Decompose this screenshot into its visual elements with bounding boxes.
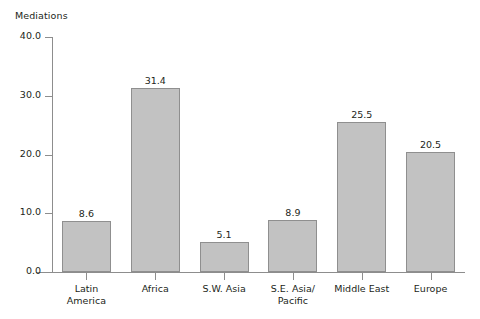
y-tick: 40.0: [45, 37, 53, 38]
x-axis-category-label: Europe: [396, 283, 465, 295]
x-axis-category-label: Latin America: [52, 283, 121, 306]
bar-value-label: 8.9: [285, 207, 300, 218]
y-tick-label: 20.0: [20, 148, 41, 159]
x-tick: [155, 273, 156, 280]
bar: 8.6: [62, 221, 111, 272]
bar-value-label: 31.4: [145, 75, 166, 86]
bar-chart: Mediations 0.010.020.030.040.0 8.631.45.…: [0, 0, 480, 319]
bar-value-label: 8.6: [79, 208, 94, 219]
y-tick: 20.0: [45, 155, 53, 156]
bar: 25.5: [337, 122, 386, 272]
x-axis-category-label: Africa: [121, 283, 190, 295]
y-tick-label: 0.0: [26, 265, 41, 276]
x-axis-line: [36, 272, 465, 273]
bar: 8.9: [268, 220, 317, 272]
bar-value-label: 20.5: [420, 139, 441, 150]
x-tick: [224, 273, 225, 280]
bar: 20.5: [406, 152, 455, 272]
y-tick: 0.0: [45, 272, 53, 273]
bar-value-label: 25.5: [351, 109, 372, 120]
x-tick: [293, 273, 294, 280]
x-axis-category-label: S.W. Asia: [190, 283, 259, 295]
x-tick: [362, 273, 363, 280]
y-tick-label: 40.0: [20, 30, 41, 41]
bar: 5.1: [200, 242, 249, 272]
y-tick-label: 10.0: [20, 206, 41, 217]
bar: 31.4: [131, 88, 180, 272]
y-tick: 30.0: [45, 96, 53, 97]
x-axis-category-label: Middle East: [327, 283, 396, 295]
x-tick: [86, 273, 87, 280]
y-axis-title: Mediations: [15, 10, 68, 21]
bar-value-label: 5.1: [217, 229, 232, 240]
x-axis-category-label: S.E. Asia/ Pacific: [259, 283, 328, 306]
y-tick-label: 30.0: [20, 89, 41, 100]
x-tick: [431, 273, 432, 280]
y-tick: 10.0: [45, 213, 53, 214]
